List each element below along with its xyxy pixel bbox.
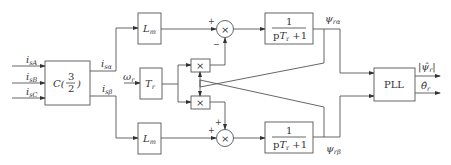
multiplier-bottom-symbol: × — [196, 97, 204, 108]
theta-label: θ̂r — [421, 80, 431, 93]
svg-text:1: 1 — [286, 16, 292, 27]
input-label-isC: isC — [26, 86, 38, 99]
isbeta-label: isβ — [102, 83, 113, 96]
isbeta-line — [90, 96, 138, 138]
psi-beta-label: ψrβ — [326, 143, 341, 156]
isalpha-line — [90, 28, 138, 71]
flux-magnitude-label: |ψ̂r| — [418, 61, 436, 74]
pll-label: PLL — [384, 79, 404, 90]
isalpha-label: isα — [101, 58, 113, 71]
svg-text:1: 1 — [286, 125, 292, 136]
transform-numerator: 3 — [68, 71, 74, 82]
omega-label: ωr — [123, 71, 135, 84]
psi-alpha-line — [313, 29, 374, 73]
transform-denominator: 2 — [68, 83, 74, 94]
flux-observer-block-diagram: isA isB isC C( 3 2 ) isα isβ Lm Lm ωr Tr… — [0, 0, 451, 165]
transform-close: ) — [76, 78, 81, 89]
summer-top-minus: − — [213, 40, 220, 49]
psi-alpha-label: ψrα — [325, 13, 341, 26]
input-label-isB: isB — [26, 71, 38, 84]
psi-beta-line — [313, 96, 374, 137]
transform-label: C( — [53, 78, 66, 89]
summer-top-plus: + — [208, 17, 215, 26]
input-label-isA: isA — [26, 54, 38, 67]
summer-bottom-plus1: + — [208, 126, 215, 135]
multiplier-top-symbol: × — [196, 60, 204, 71]
summer-bottom-plus2: + — [215, 118, 222, 127]
svg-text:×: × — [221, 24, 229, 35]
svg-text:×: × — [221, 133, 229, 144]
